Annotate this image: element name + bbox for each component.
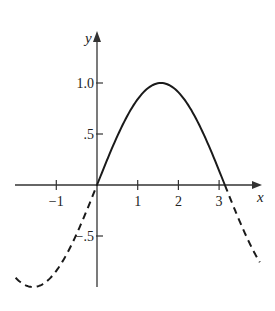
x-axis-label: x <box>256 189 264 205</box>
x-axis-arrow-icon <box>252 181 262 189</box>
plot-area: −11231.0.5−.5xy <box>0 0 275 311</box>
x-tick-label: 2 <box>175 194 182 209</box>
x-tick-label: 1 <box>134 194 141 209</box>
x-tick-label: 3 <box>216 194 223 209</box>
y-axis-label: y <box>83 30 92 46</box>
y-tick-label: 1.0 <box>77 76 95 91</box>
solid-curve <box>97 83 225 185</box>
sine-chart: −11231.0.5−.5xy <box>0 0 275 311</box>
dashed-curve <box>225 185 260 262</box>
y-tick-label: −.5 <box>76 229 94 244</box>
y-tick-label: .5 <box>84 127 95 142</box>
axes <box>15 31 262 287</box>
x-tick-label: −1 <box>49 194 64 209</box>
y-axis-arrow-icon <box>93 31 101 42</box>
labels: −11231.0.5−.5xy <box>49 30 264 244</box>
